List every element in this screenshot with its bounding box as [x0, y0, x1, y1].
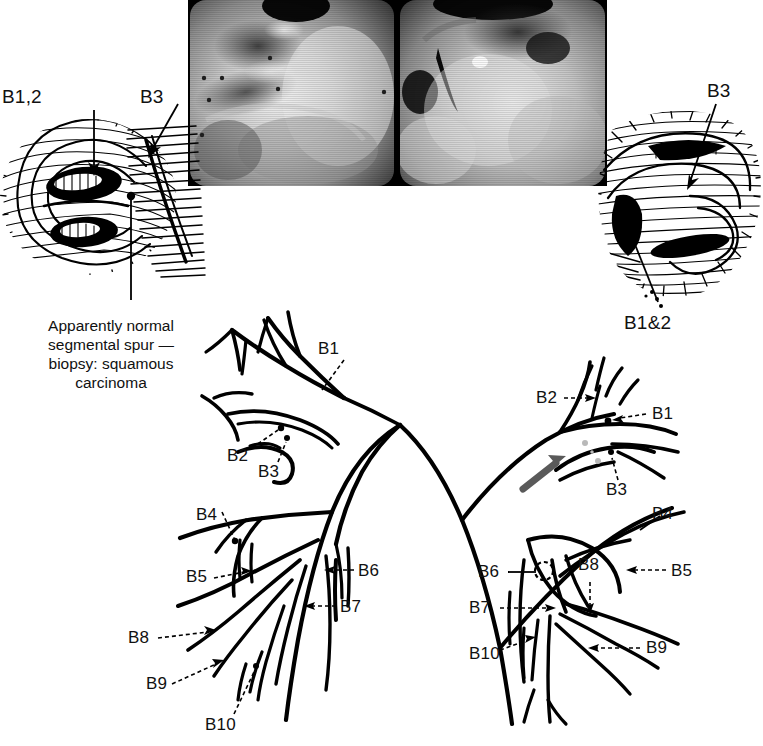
- tree-right-b5-label: B5: [671, 562, 692, 580]
- tree-left-b3-label: B3: [258, 463, 279, 481]
- tree-right-b1-label: B1: [652, 405, 673, 423]
- tree-left-b2-label: B2: [227, 447, 248, 465]
- tree-left-b9-label: B9: [146, 675, 167, 693]
- bronchial-tree-diagram: [0, 0, 763, 746]
- tree-left-b8-label: B8: [128, 629, 149, 647]
- tree-right-branches: [462, 358, 684, 724]
- tree-left-b10-label: B10: [205, 716, 236, 734]
- tree-left-b5-label: B5: [186, 568, 207, 586]
- tree-right-b2-label: B2: [536, 389, 557, 407]
- tree-right-b8-label: B8: [578, 556, 599, 574]
- tree-right-b6-label: B6: [478, 563, 499, 581]
- tree-main-stems: [286, 398, 512, 724]
- lesion-pointer-arrow: [523, 455, 566, 489]
- tree-right-b3-label: B3: [606, 481, 627, 499]
- tree-left-b7-label: B7: [340, 598, 361, 616]
- tree-left-b6-label: B6: [358, 562, 379, 580]
- tree-right-b10-label: B10: [469, 645, 500, 663]
- tree-right-b4-label: B4: [652, 505, 673, 523]
- tree-right-b9-label: B9: [646, 639, 667, 657]
- tree-left-b1-label: B1: [318, 340, 339, 358]
- tree-right-b7-label: B7: [469, 599, 490, 617]
- tree-left-b4-label: B4: [196, 506, 217, 524]
- figure-root: B1,2 B3 Apparently normal segmental spur…: [0, 0, 763, 746]
